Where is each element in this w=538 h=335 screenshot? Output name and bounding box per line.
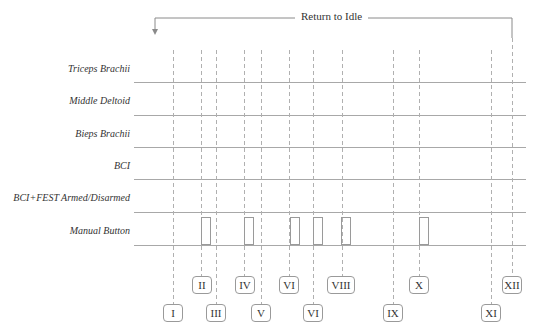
marker-VI-a: VI [279, 276, 299, 294]
marker-X: X [409, 276, 429, 294]
row-label-bci: BCI [114, 160, 130, 171]
marker-XI: XI [481, 304, 501, 322]
marker-V: V [251, 304, 271, 322]
marker-IX: IX [383, 304, 403, 322]
return-to-idle-label: Return to Idle [295, 10, 368, 22]
marker-II: II [192, 276, 212, 294]
marker-IV: IV [235, 276, 255, 294]
row-label-bci-fest: BCI+FEST Armed/Disarmed [13, 192, 130, 203]
row-separators [134, 83, 526, 246]
row-label-middle-deltoid: Middle Deltoid [69, 95, 130, 106]
manual-button-pulses [202, 218, 429, 245]
row-label-triceps: Triceps Brachii [68, 63, 130, 74]
marker-I: I [163, 304, 183, 322]
row-label-manual-button: Manual Button [70, 225, 130, 236]
marker-III: III [206, 304, 226, 322]
marker-VIII: VIII [327, 276, 355, 294]
row-label-biceps: Bieps Brachii [75, 128, 130, 139]
event-lines [174, 38, 513, 314]
marker-XII: XII [502, 276, 522, 294]
marker-VI-b: VI [303, 304, 323, 322]
timing-diagram-canvas [0, 0, 538, 335]
